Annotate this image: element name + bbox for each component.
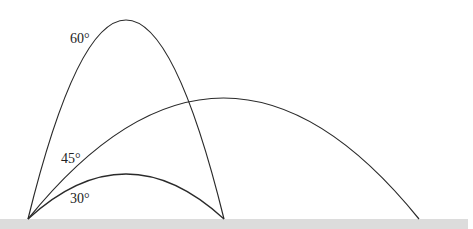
label-30: 30°: [70, 192, 90, 206]
trajectory-30: [28, 174, 224, 219]
label-45: 45°: [61, 152, 81, 166]
projectile-diagram: 60° 45° 30°: [0, 0, 473, 229]
label-60: 60°: [70, 32, 90, 46]
trajectory-60: [28, 20, 224, 219]
